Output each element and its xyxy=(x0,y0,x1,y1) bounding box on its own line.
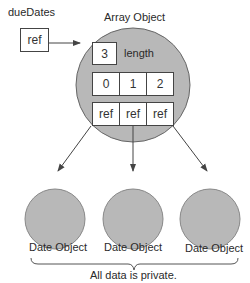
ref-text: ref xyxy=(153,107,167,121)
index-cell-2: 2 xyxy=(146,72,174,96)
length-value: 3 xyxy=(101,47,108,61)
date-object-circle-1 xyxy=(25,189,85,249)
date-object-circle-3 xyxy=(180,189,240,249)
ref-text: ref xyxy=(99,107,113,121)
variable-ref-text: ref xyxy=(27,33,41,47)
variable-name: dueDates xyxy=(8,6,55,18)
date-object-circle-2 xyxy=(103,189,163,249)
date-object-label-1: Date Object xyxy=(29,241,87,253)
ref-arrow-3 xyxy=(173,126,207,171)
ref-arrow-1 xyxy=(58,126,91,171)
variable-ref-box: ref xyxy=(20,28,49,52)
index-text: 2 xyxy=(157,77,164,91)
array-object-title: Array Object xyxy=(104,11,165,23)
ref-cell-2: ref xyxy=(146,102,174,126)
ref-text: ref xyxy=(126,107,140,121)
index-text: 1 xyxy=(130,77,137,91)
index-text: 0 xyxy=(103,77,110,91)
index-cell-1: 1 xyxy=(119,72,147,96)
date-object-label-2: Date Object xyxy=(104,241,162,253)
caption: All data is private. xyxy=(90,269,177,281)
length-value-box: 3 xyxy=(92,42,117,65)
ref-cell-1: ref xyxy=(119,102,147,126)
length-label: length xyxy=(124,47,154,59)
date-object-label-3: Date Object xyxy=(185,242,243,254)
index-cell-0: 0 xyxy=(92,72,120,96)
ref-cell-0: ref xyxy=(92,102,120,126)
